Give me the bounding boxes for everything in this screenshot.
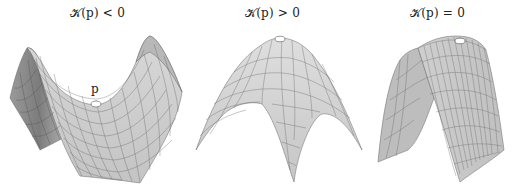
panel-negative-curvature: 𝒦(p) < 0 — [0, 0, 200, 193]
saddle-surface — [0, 0, 200, 193]
panel-positive-curvature: 𝒦(p) > 0 — [190, 0, 370, 193]
cylinder-surface — [360, 0, 520, 193]
cylinder-point-marker — [455, 38, 465, 44]
dome-surface — [190, 0, 370, 193]
panel-zero-curvature: 𝒦(p) = 0 — [360, 0, 520, 193]
point-p-label: p — [91, 82, 99, 96]
dome-point-marker — [275, 36, 285, 42]
point-p-marker — [91, 101, 101, 107]
